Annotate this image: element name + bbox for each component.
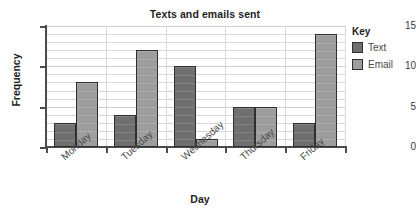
x-tick-2 — [166, 148, 168, 153]
y-tick-label-5: 5 — [378, 101, 416, 112]
bar-chart: Texts and emails sent Frequency Day 0510… — [0, 0, 416, 216]
gridline-x-4 — [285, 26, 286, 147]
gridline-y-11 — [46, 58, 345, 59]
y-axis-line — [45, 25, 47, 148]
x-tick-5 — [345, 148, 347, 153]
x-axis-title: Day — [110, 193, 290, 205]
x-tick-1 — [106, 148, 108, 153]
legend-title: Key — [352, 26, 416, 37]
legend-swatch-text — [352, 42, 363, 53]
bar-friday-email — [315, 34, 337, 147]
gridline-y-9 — [46, 74, 345, 75]
y-tick-5 — [40, 107, 47, 109]
x-tick-4 — [285, 148, 287, 153]
legend-entries: TextEmail — [352, 42, 416, 70]
y-tick-15 — [40, 26, 47, 28]
gridline-y-14 — [46, 34, 345, 35]
gridline-y-15 — [46, 26, 345, 27]
legend-label-text: Text — [368, 42, 386, 53]
legend-swatch-email — [352, 59, 363, 70]
legend: Key TextEmail — [352, 26, 416, 76]
gridline-y-13 — [46, 42, 345, 43]
legend-entry-text[interactable]: Text — [352, 42, 416, 53]
gridline-y-12 — [46, 50, 345, 51]
y-tick-label-0: 0 — [378, 141, 416, 152]
gridline-x-2 — [166, 26, 167, 147]
gridline-x-5 — [345, 26, 346, 147]
bar-wednesday-text — [174, 66, 196, 147]
x-tick-0 — [46, 148, 48, 153]
gridline-x-1 — [106, 26, 107, 147]
gridline-y-10 — [46, 66, 345, 67]
legend-label-email: Email — [368, 59, 393, 70]
y-tick-10 — [40, 66, 47, 68]
chart-title: Texts and emails sent — [60, 8, 350, 20]
y-axis-title: Frequency — [10, 35, 22, 125]
x-tick-3 — [225, 148, 227, 153]
gridline-x-3 — [225, 26, 226, 147]
legend-entry-email[interactable]: Email — [352, 59, 416, 70]
